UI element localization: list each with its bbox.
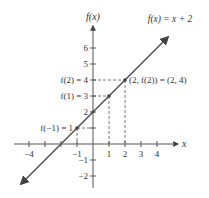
y-label-3: f(1) = 3 (60, 91, 88, 101)
x-label-1: 1 (107, 149, 112, 159)
x-label-2: 2 (123, 149, 128, 159)
point-neg1-1 (75, 126, 79, 130)
y-label-6: 6 (84, 43, 89, 53)
x-label-neg1: −1 (72, 149, 82, 159)
y-label-2: 2 (84, 107, 89, 117)
x-label-4: 4 (155, 149, 160, 159)
function-graph: f(x) x f(x) = x + 2 (2, f(2)) = (2, 4) 6… (0, 0, 209, 198)
y-axis-label: f(x) (86, 11, 101, 23)
y-label-4: f(2) = 4 (60, 75, 88, 85)
x-axis-label: x (181, 138, 187, 149)
y-label-neg2: −2 (78, 171, 88, 181)
function-label: f(x) = x + 2 (148, 14, 193, 25)
x-label-neg4: −4 (24, 149, 34, 159)
y-label-5: 5 (84, 59, 89, 69)
x-tick-labels: −4 −1 1 2 3 4 (24, 149, 160, 159)
point-1-3 (107, 94, 111, 98)
x-label-3: 3 (139, 149, 144, 159)
y-tick-labels: 6 5 f(2) = 4 f(1) = 3 2 f(−1) = 1 −1 −2 (40, 43, 88, 181)
function-line (21, 37, 168, 184)
y-label-1: f(−1) = 1 (40, 123, 73, 133)
point-2-4 (123, 78, 127, 82)
point-0-2 (92, 111, 95, 114)
point-annotation: (2, f(2)) = (2, 4) (129, 75, 187, 85)
